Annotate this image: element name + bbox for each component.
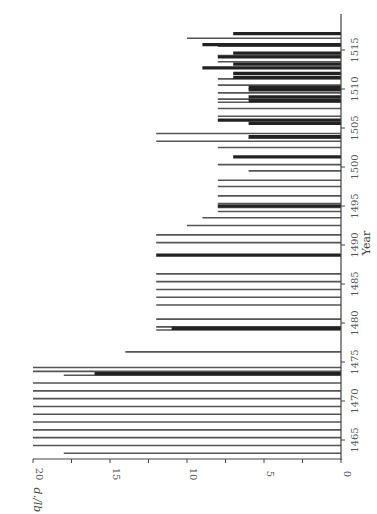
year-tick-label: 1515: [349, 37, 360, 62]
year-tick-label: 1510: [349, 76, 360, 101]
year-tick-label: 1480: [349, 310, 360, 335]
value-tick-label: 0: [342, 471, 353, 477]
year-tick-label: 1475: [349, 349, 360, 374]
year-axis-title: Year: [360, 230, 373, 256]
value-tick-label: 10: [188, 468, 199, 481]
year-tick-label: 1465: [349, 427, 360, 452]
year-tick-label: 1505: [349, 115, 360, 140]
year-axis-ticks: 1465147014751480148514901495150015051510…: [341, 37, 360, 452]
value-axis-title: d./lb: [31, 488, 44, 513]
value-axis-ticks: 05101520: [33, 459, 353, 480]
year-tick-label: 1470: [349, 388, 360, 413]
value-tick-label: 15: [111, 468, 122, 481]
price-bar-chart: 1465147014751480148514901495150015051510…: [0, 0, 377, 514]
year-tick-label: 1490: [349, 232, 360, 257]
value-tick-label: 20: [34, 468, 45, 481]
year-tick-label: 1495: [349, 193, 360, 218]
year-tick-label: 1485: [349, 271, 360, 296]
year-tick-label: 1500: [349, 154, 360, 179]
value-tick-label: 5: [265, 471, 276, 477]
